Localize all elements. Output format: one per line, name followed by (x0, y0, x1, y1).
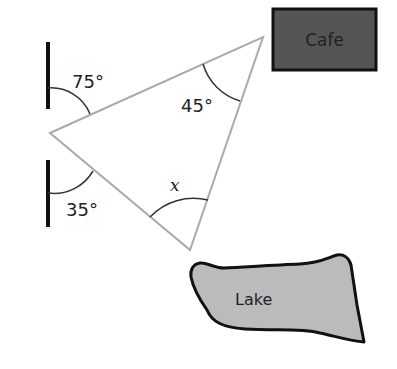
diagram-canvas: 75° 35° 45° x Cafe Lake (0, 0, 397, 369)
label-45: 45° (181, 95, 213, 116)
label-75: 75° (72, 71, 104, 92)
label-35: 35° (66, 199, 98, 220)
label-x: x (170, 175, 180, 195)
lake-label: Lake (235, 290, 272, 309)
arc-x (150, 198, 208, 217)
lake-shape (191, 255, 364, 342)
arc-35 (48, 171, 93, 193)
cafe-label: Cafe (305, 30, 344, 50)
